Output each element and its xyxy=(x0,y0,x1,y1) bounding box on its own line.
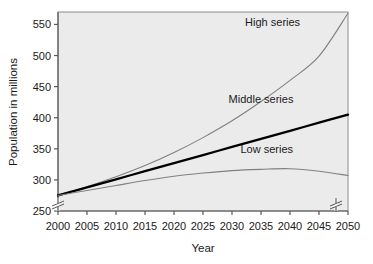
x-tick-label: 2035 xyxy=(249,220,273,232)
population-projection-chart: 250300350400450500550 200020052010201520… xyxy=(0,0,373,264)
x-tick-label: 2000 xyxy=(46,220,70,232)
x-axis-tick-labels: 2000200520102015202020252030203520402045… xyxy=(46,220,360,232)
series-label-low-series: Low series xyxy=(241,143,294,155)
x-tick-label: 2040 xyxy=(278,220,302,232)
x-tick-label: 2045 xyxy=(307,220,331,232)
chart-page: 250300350400450500550 200020052010201520… xyxy=(0,0,373,264)
y-tick-label: 300 xyxy=(33,174,51,186)
y-tick-label: 350 xyxy=(33,143,51,155)
x-axis-ticks xyxy=(58,211,348,215)
y-tick-label: 450 xyxy=(33,81,51,93)
plot-background xyxy=(58,12,348,211)
x-tick-label: 2020 xyxy=(162,220,186,232)
y-tick-label: 550 xyxy=(33,18,51,30)
x-tick-label: 2005 xyxy=(75,220,99,232)
x-tick-label: 2050 xyxy=(336,220,360,232)
x-tick-label: 2025 xyxy=(191,220,215,232)
series-label-middle-series: Middle series xyxy=(229,93,294,105)
y-tick-label: 500 xyxy=(33,50,51,62)
y-axis-title: Population in millions xyxy=(7,58,19,166)
y-axis-tick-labels: 250300350400450500550 xyxy=(33,18,51,217)
series-label-high-series: High series xyxy=(245,16,301,28)
x-tick-label: 2030 xyxy=(220,220,244,232)
x-tick-label: 2010 xyxy=(104,220,128,232)
x-axis-title: Year xyxy=(191,242,214,254)
y-tick-label: 250 xyxy=(33,205,51,217)
x-tick-label: 2015 xyxy=(133,220,157,232)
y-tick-label: 400 xyxy=(33,112,51,124)
